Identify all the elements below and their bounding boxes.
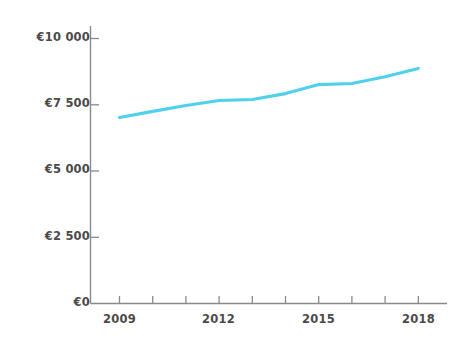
x-tick-label-2018: 2018 (392, 314, 445, 326)
y-tick-label-5000: €5 000 (45, 164, 90, 176)
y-tick-label-10000: €10 000 (37, 32, 90, 44)
x-tick-label-2009: 2009 (93, 314, 146, 326)
series-line-primary (120, 68, 419, 117)
x-axis-ticks (120, 296, 419, 304)
y-tick-label-0: €0 (74, 297, 90, 309)
x-tick-label-2015: 2015 (292, 314, 345, 326)
y-tick-label-7500: €7 500 (45, 98, 90, 110)
x-tick-label-2012: 2012 (192, 314, 245, 326)
y-tick-label-2500: €2 500 (45, 231, 90, 243)
line-chart: €10 000 €7 500 €5 000 €2 500 €0 2009 201… (0, 0, 462, 350)
y-axis-ticks (91, 39, 100, 238)
